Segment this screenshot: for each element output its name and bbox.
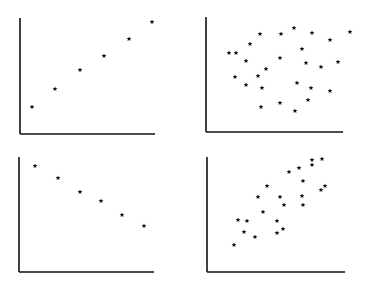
- star-marker-icon: [253, 234, 258, 239]
- star-marker-icon: [304, 60, 309, 65]
- star-marker-icon: [236, 217, 241, 222]
- star-marker-icon: [310, 162, 315, 167]
- star-marker-icon: [278, 194, 283, 199]
- star-marker-icon: [320, 156, 325, 161]
- star-marker-icon: [120, 212, 125, 217]
- star-marker-icon: [281, 226, 286, 231]
- star-marker-icon: [275, 230, 280, 235]
- star-marker-icon: [102, 53, 107, 58]
- star-marker-icon: [319, 64, 324, 69]
- star-marker-icon: [244, 58, 249, 63]
- star-marker-icon: [245, 218, 250, 223]
- star-marker-icon: [264, 66, 269, 71]
- star-marker-icon: [295, 80, 300, 85]
- star-marker-icon: [297, 165, 302, 170]
- star-marker-icon: [259, 104, 264, 109]
- star-marker-icon: [319, 187, 324, 192]
- star-marker-icon: [258, 31, 263, 36]
- star-marker-icon: [127, 36, 132, 41]
- star-marker-icon: [248, 41, 253, 46]
- star-marker-icon: [278, 55, 283, 60]
- star-marker-icon: [242, 229, 247, 234]
- star-marker-icon: [30, 104, 35, 109]
- star-marker-icon: [150, 19, 155, 24]
- star-marker-icon: [233, 74, 238, 79]
- star-marker-icon: [78, 189, 83, 194]
- star-marker-icon: [256, 194, 261, 199]
- star-marker-icon: [328, 88, 333, 93]
- star-marker-icon: [261, 209, 266, 214]
- star-marker-icon: [256, 73, 261, 78]
- star-marker-icon: [323, 183, 328, 188]
- star-marker-icon: [309, 85, 314, 90]
- scatter-plot-positive-moderate: [207, 156, 345, 272]
- star-marker-icon: [300, 193, 305, 198]
- star-marker-icon: [336, 59, 341, 64]
- star-marker-icon: [293, 108, 298, 113]
- star-marker-icon: [227, 50, 232, 55]
- star-marker-icon: [275, 218, 280, 223]
- star-marker-icon: [279, 31, 284, 36]
- scatter-plot-grid: [0, 0, 365, 289]
- star-marker-icon: [300, 46, 305, 51]
- star-marker-icon: [310, 157, 315, 162]
- star-marker-icon: [287, 169, 292, 174]
- scatter-plot-positive-perfect: [20, 18, 155, 134]
- scatter-plot-negative-perfect: [19, 157, 154, 272]
- star-marker-icon: [348, 29, 353, 34]
- star-marker-icon: [282, 202, 287, 207]
- star-marker-icon: [99, 198, 104, 203]
- star-marker-icon: [142, 223, 147, 228]
- star-marker-icon: [260, 85, 265, 90]
- star-marker-icon: [232, 242, 237, 247]
- star-marker-icon: [301, 202, 306, 207]
- star-marker-icon: [278, 100, 283, 105]
- star-marker-icon: [306, 97, 311, 102]
- star-marker-icon: [234, 50, 239, 55]
- star-marker-icon: [292, 25, 297, 30]
- star-marker-icon: [78, 67, 83, 72]
- star-marker-icon: [310, 30, 315, 35]
- star-marker-icon: [301, 178, 306, 183]
- star-marker-icon: [328, 37, 333, 42]
- star-marker-icon: [33, 163, 38, 168]
- star-marker-icon: [56, 175, 61, 180]
- star-marker-icon: [244, 82, 249, 87]
- scatter-plot-no-correlation: [206, 17, 352, 132]
- star-marker-icon: [265, 183, 270, 188]
- star-marker-icon: [53, 86, 58, 91]
